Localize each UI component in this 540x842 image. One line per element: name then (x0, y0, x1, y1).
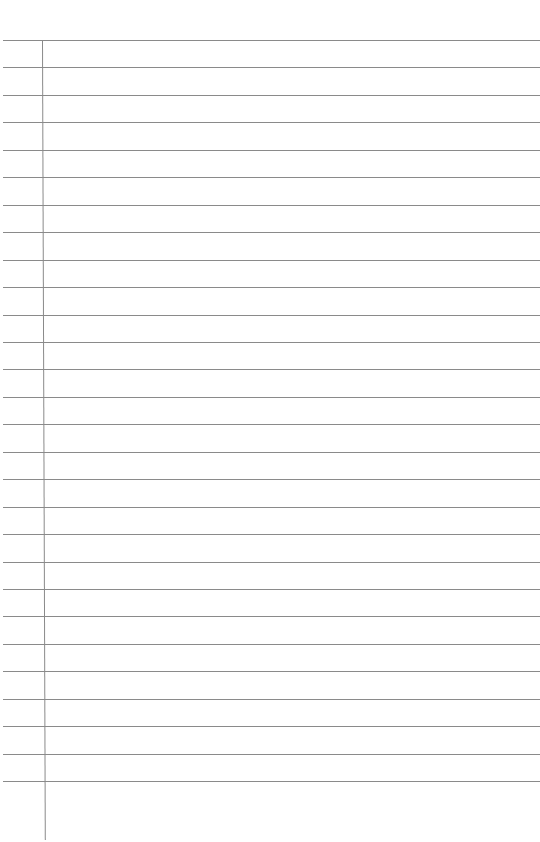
ruled-line (3, 644, 540, 645)
ruled-line (3, 232, 540, 233)
ruled-line (3, 67, 540, 68)
ruled-line (3, 177, 540, 178)
ruled-line (3, 534, 540, 535)
ruled-line (3, 726, 540, 727)
ruled-line (3, 424, 540, 425)
ruled-line (3, 479, 540, 480)
ruled-line (3, 315, 540, 316)
lined-paper (0, 0, 540, 842)
ruled-line (3, 342, 540, 343)
ruled-line (3, 122, 540, 123)
ruled-line (3, 507, 540, 508)
ruled-line (3, 616, 540, 617)
ruled-line (3, 671, 540, 672)
ruled-line (3, 40, 540, 41)
ruled-line (3, 150, 540, 151)
ruled-line (3, 397, 540, 398)
ruled-line (3, 754, 540, 755)
ruled-line (3, 205, 540, 206)
ruled-line (3, 589, 540, 590)
ruled-line (3, 260, 540, 261)
ruled-line (3, 287, 540, 288)
ruled-line (3, 369, 540, 370)
ruled-line (3, 562, 540, 563)
ruled-line (3, 452, 540, 453)
ruled-line (3, 95, 540, 96)
margin-line (42, 40, 46, 840)
ruled-line (3, 699, 540, 700)
ruled-line (3, 781, 540, 782)
